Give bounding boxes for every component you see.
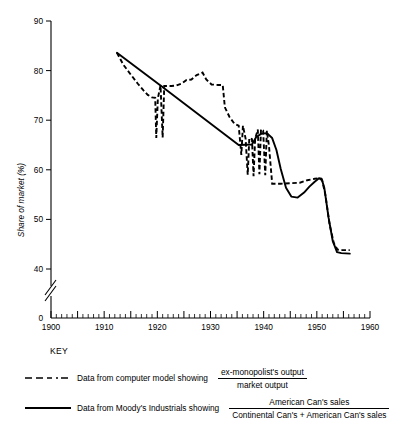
y-tick-label-70: 70 — [34, 115, 44, 125]
legend-entry-computer-model: Data from computer model showing ex-mono… — [25, 366, 307, 389]
y-tick-label-50: 50 — [34, 214, 44, 224]
solid-line-sample — [25, 403, 73, 413]
key-title: KEY — [50, 346, 68, 356]
y-tick-label-90: 90 — [34, 16, 44, 26]
x-tick-label-1910: 1910 — [95, 322, 114, 332]
y-tick-label-60: 60 — [34, 165, 44, 175]
legend-fraction-moodys: American Can's sales Continental Can's +… — [229, 397, 389, 420]
legend-fraction-denominator: market output — [218, 379, 307, 390]
legend-label-computer-model: Data from computer model showing — [77, 373, 208, 383]
x-tick-label-1900: 1900 — [42, 322, 61, 332]
legend-fraction-numerator: American Can's sales — [229, 397, 389, 409]
series-line-moodys — [117, 53, 350, 254]
market-share-figure: 4050607080900Share of market (%)19001910… — [0, 0, 414, 429]
legend-entry-moodys: Data from Moody's Industrials showing Am… — [25, 396, 389, 419]
x-tick-label-1930: 1930 — [201, 322, 220, 332]
legend-fraction-numerator: ex-monopolist's output — [218, 367, 307, 379]
legend-label-moodys: Data from Moody's Industrials showing — [77, 403, 219, 413]
market-share-chart: 4050607080900Share of market (%)19001910… — [0, 0, 414, 340]
y-axis-title: Share of market (%) — [16, 163, 26, 237]
y-tick-label-40: 40 — [34, 264, 44, 274]
x-tick-label-1920: 1920 — [148, 322, 167, 332]
legend-fraction-denominator: Continental Can's + American Can's sales — [229, 409, 389, 420]
series-line-computer-model — [117, 53, 350, 250]
x-tick-label-1950: 1950 — [308, 322, 327, 332]
chart-key: KEY Data from computer model showing ex-… — [0, 340, 414, 429]
x-tick-label-1940: 1940 — [254, 322, 273, 332]
dashed-line-sample — [25, 373, 73, 383]
x-tick-label-1960: 1960 — [361, 322, 380, 332]
legend-fraction-computer-model: ex-monopolist's output market output — [218, 367, 307, 390]
y-tick-label-80: 80 — [34, 66, 44, 76]
